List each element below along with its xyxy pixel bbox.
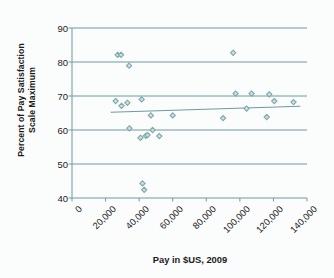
x-axis-tick-label: 0 (0, 204, 84, 278)
scatter-plot-figure: Percent of Pay Satisfaction Scale Maximu… (0, 0, 334, 278)
x-axis-tick-labels: 020,00040,00060,00080,000100,000120,0001… (0, 0, 334, 278)
x-axis-title: Pay in $US, 2009 (60, 254, 320, 265)
